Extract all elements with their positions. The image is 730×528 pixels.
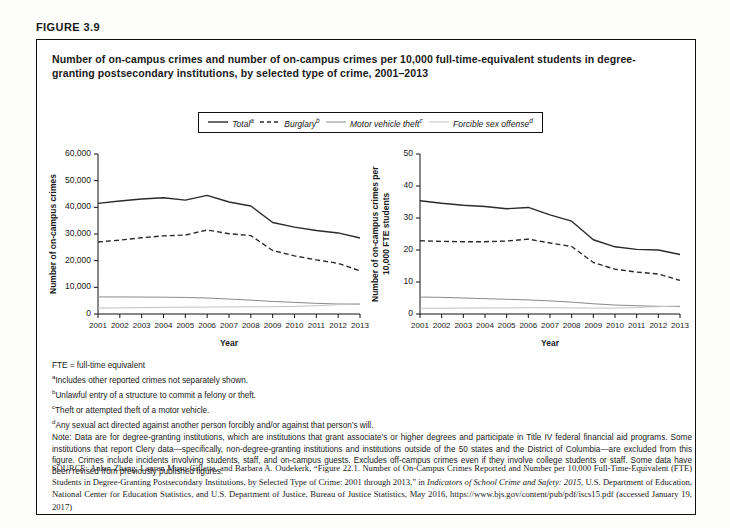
series-line-total <box>98 195 360 238</box>
legend-item-total: Totala <box>208 117 254 129</box>
legend-item-burglary: Burglaryb <box>260 117 319 129</box>
footnote-text: Any sexual act directed against another … <box>55 420 373 429</box>
series-line-forcible-sex-offense <box>98 304 360 309</box>
plot-area <box>46 148 366 358</box>
footnote-c: cTheft or attempted theft of a motor veh… <box>52 401 692 416</box>
footnote-text: Includes other reported crimes not separ… <box>55 376 248 385</box>
footnote-list: aIncludes other reported crimes not sepa… <box>52 371 692 430</box>
legend-footnote-marker: a <box>250 117 254 124</box>
legend-item-label: Burglaryb <box>284 117 319 129</box>
legend-item-motor-vehicle-theft: Motor vehicle theftc <box>326 117 423 129</box>
legend-footnote-marker: d <box>529 117 533 124</box>
chart-legend: TotalaBurglarybMotor vehicle theftcForci… <box>198 112 543 133</box>
chart-right-rates: Number of on-campus crimes per 10,000 FT… <box>368 148 686 358</box>
series-line-forcible-sex-offense <box>420 306 680 308</box>
footnote-a: aIncludes other reported crimes not sepa… <box>52 371 692 386</box>
footnote-text: Theft or attempted theft of a motor vehi… <box>55 405 209 414</box>
footnote-text: Unlawful entry of a structure to commit … <box>55 391 256 400</box>
series-line-motor-vehicle-theft <box>98 297 360 304</box>
footnote-d: dAny sexual act directed against another… <box>52 416 692 431</box>
series-line-total <box>420 201 680 255</box>
abbreviation-note: FTE = full-time equivalent <box>52 360 692 371</box>
chart-left-counts: Number of on-campus crimes010,00020,0003… <box>46 148 366 358</box>
legend-item-forcible-sex-offense: Forcible sex offensed <box>429 117 533 129</box>
source-block: SOURCE: Anlan Zhang, Lauren Musu-Gillett… <box>52 462 692 513</box>
figure-label: FIGURE 3.9 <box>36 21 100 33</box>
source-label: SOURCE: <box>52 464 88 473</box>
x-axis-label: Year <box>420 338 680 348</box>
series-line-burglary <box>420 239 680 280</box>
legend-footnote-marker: b <box>316 117 320 124</box>
legend-item-label: Totala <box>232 117 254 129</box>
plot-area <box>368 148 686 358</box>
legend-item-label: Forcible sex offensed <box>453 117 533 129</box>
series-line-burglary <box>98 230 360 271</box>
figure-title: Number of on-campus crimes and number of… <box>52 52 672 80</box>
legend-footnote-marker: c <box>419 117 422 124</box>
charts-container: Number of on-campus crimes010,00020,0003… <box>46 148 686 358</box>
series-line-motor-vehicle-theft <box>420 297 680 307</box>
notes-block: FTE = full-time equivalent aIncludes oth… <box>52 360 692 477</box>
source-italic-title: Indicators of School Crime and Safety: 2… <box>427 477 581 487</box>
footnote-b: bUnlawful entry of a structure to commit… <box>52 386 692 401</box>
x-axis-label: Year <box>98 338 360 348</box>
legend-item-label: Motor vehicle theftc <box>350 117 423 129</box>
